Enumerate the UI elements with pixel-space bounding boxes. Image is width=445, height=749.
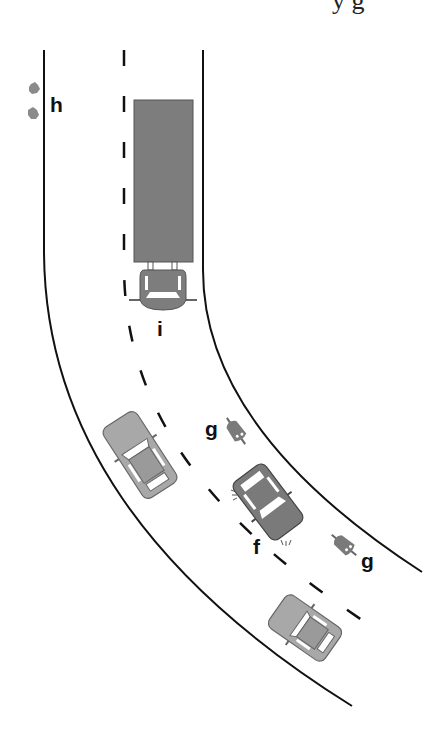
label-f: f bbox=[253, 536, 260, 557]
car-oncoming-icon bbox=[96, 406, 184, 504]
cyclist-icon bbox=[221, 414, 251, 448]
roadside-object-icon bbox=[28, 82, 40, 119]
label-i: i bbox=[157, 318, 163, 339]
cyclist-icon bbox=[327, 529, 361, 560]
road-diagram bbox=[0, 0, 445, 749]
road-edge-inner bbox=[203, 50, 422, 572]
label-g-lower: g bbox=[361, 550, 374, 571]
truck-icon bbox=[129, 100, 197, 310]
car-following-icon bbox=[263, 588, 347, 668]
label-h: h bbox=[50, 94, 63, 115]
label-g-upper: g bbox=[205, 418, 218, 439]
